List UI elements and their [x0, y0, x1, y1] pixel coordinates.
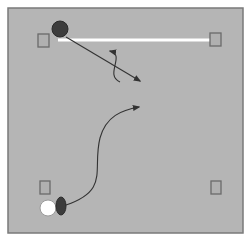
- marker-top-right-icon: [210, 33, 221, 46]
- marker-top-left-icon: [38, 34, 49, 47]
- play-diagram: [0, 0, 250, 244]
- marker-bottom-left-icon: [40, 181, 50, 194]
- marker-bottom-right-icon: [211, 181, 221, 194]
- dark-oval-bottom-icon: [56, 197, 66, 215]
- dark-ball-top-icon: [52, 21, 68, 37]
- white-ball-bottom-icon: [40, 200, 56, 216]
